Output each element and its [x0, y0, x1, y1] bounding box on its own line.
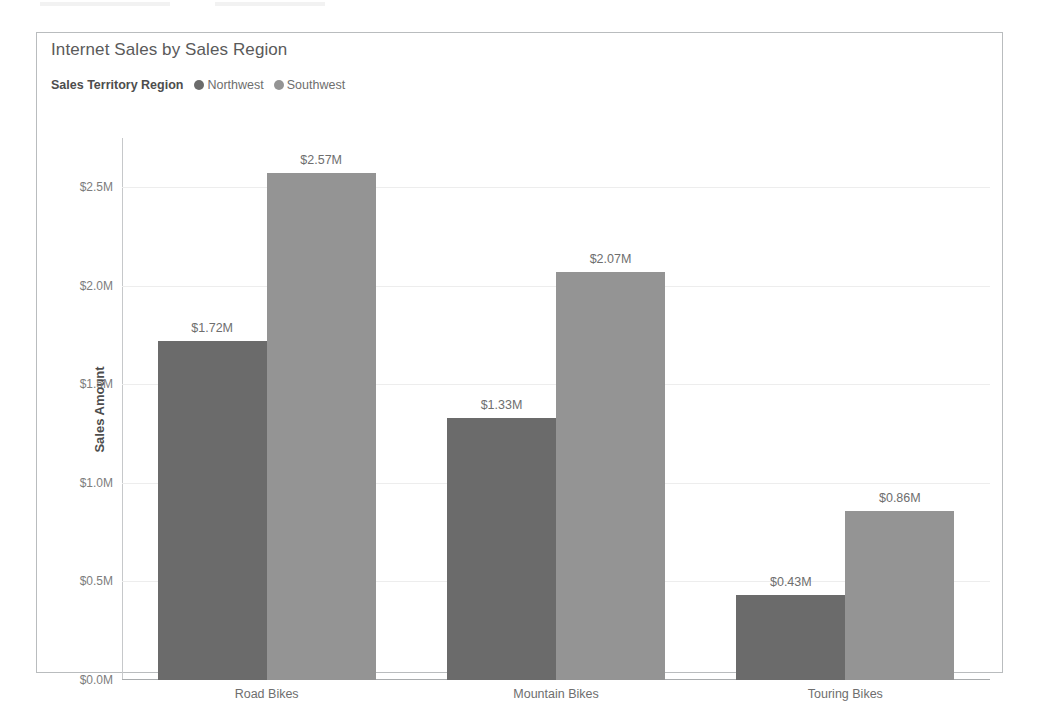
x-axis-tick-label: Road Bikes [235, 687, 299, 701]
y-axis-line [122, 138, 123, 680]
y-axis-tick-label: $0.5M [80, 574, 113, 588]
scan-artifact [40, 2, 170, 6]
chart-legend: Sales Territory Region Northwest Southwe… [51, 78, 355, 92]
chart-title: Internet Sales by Sales Region [51, 40, 287, 60]
bar-value-label: $2.57M [300, 153, 342, 167]
plot-area: $0.0M$0.5M$1.0M$1.5M$2.0M$2.5M$1.72M$2.5… [122, 138, 990, 680]
legend-swatch-northwest [194, 80, 204, 90]
y-axis-tick-label: $1.5M [80, 377, 113, 391]
chart-card: Internet Sales by Sales Region Sales Ter… [36, 32, 1003, 673]
legend-swatch-southwest [274, 80, 284, 90]
bar-southwest-mountain-bikes[interactable]: $2.07M [556, 272, 665, 680]
y-axis-tick-label: $1.0M [80, 476, 113, 490]
bar-group: $1.72M$2.57MRoad Bikes [158, 138, 376, 680]
legend-label-southwest: Southwest [287, 78, 345, 92]
bar-northwest-touring-bikes[interactable]: $0.43M [736, 595, 845, 680]
legend-label-northwest: Northwest [207, 78, 263, 92]
legend-item-southwest[interactable]: Southwest [274, 78, 345, 92]
bar-northwest-mountain-bikes[interactable]: $1.33M [447, 418, 556, 680]
bar-value-label: $1.33M [481, 398, 523, 412]
bar-southwest-touring-bikes[interactable]: $0.86M [845, 511, 954, 680]
x-axis-tick-label: Mountain Bikes [513, 687, 598, 701]
bar-group: $0.43M$0.86MTouring Bikes [736, 138, 954, 680]
y-axis-tick-label: $0.0M [80, 673, 113, 687]
x-axis-tick-label: Touring Bikes [808, 687, 883, 701]
y-axis-tick-label: $2.5M [80, 180, 113, 194]
bar-group: $1.33M$2.07MMountain Bikes [447, 138, 665, 680]
bar-value-label: $0.43M [770, 575, 812, 589]
bar-southwest-road-bikes[interactable]: $2.57M [267, 173, 376, 680]
scan-artifact [215, 2, 325, 6]
legend-title: Sales Territory Region [51, 78, 183, 92]
y-axis-title: Sales Amount [89, 138, 109, 680]
bar-northwest-road-bikes[interactable]: $1.72M [158, 341, 267, 680]
bar-value-label: $0.86M [879, 491, 921, 505]
y-axis-tick-label: $2.0M [80, 279, 113, 293]
bar-value-label: $2.07M [590, 252, 632, 266]
legend-item-northwest[interactable]: Northwest [194, 78, 263, 92]
bar-value-label: $1.72M [191, 321, 233, 335]
